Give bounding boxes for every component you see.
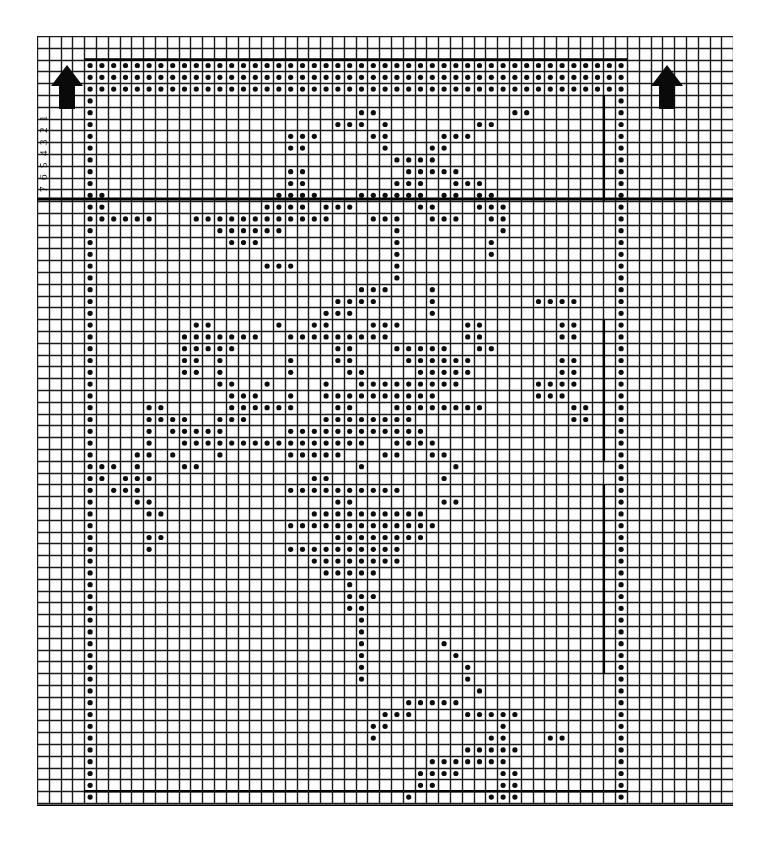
- filet-crochet-grid: [37, 36, 733, 806]
- row-number-4: 4: [37, 147, 57, 159]
- row-number-2: 2: [37, 124, 57, 136]
- pattern-chart-page: 1234567: [0, 0, 760, 860]
- stitch-grid-canvas: [37, 36, 733, 806]
- row-number-5: 5: [37, 159, 57, 171]
- repeat-arrow-right-icon: [650, 64, 684, 110]
- row-number-3: 3: [37, 136, 57, 148]
- row-number-1: 1: [37, 112, 57, 124]
- repeat-arrow-left-icon: [50, 64, 84, 110]
- row-number-strip: 1234567: [37, 112, 57, 196]
- row-number-7: 7: [37, 183, 57, 195]
- row-number-6: 6: [37, 171, 57, 183]
